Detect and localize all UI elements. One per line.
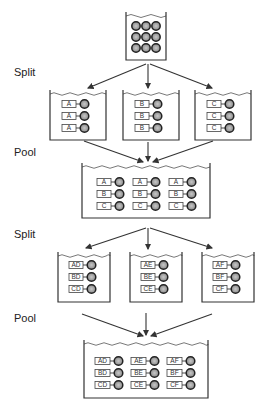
tag-label: AF — [170, 357, 178, 364]
tagged-bead: AE — [141, 261, 168, 270]
tag-label: CF — [216, 285, 225, 292]
tag-label: B — [140, 100, 144, 107]
tag-label: B — [140, 112, 144, 119]
tagged-bead: AE — [131, 357, 159, 366]
bead-icon — [159, 273, 168, 282]
bead-icon — [114, 381, 123, 390]
bead-icon — [231, 285, 240, 294]
bead-icon — [231, 261, 240, 270]
bead-icon — [225, 100, 234, 109]
bead-icon — [225, 112, 234, 121]
tagged-bead: B — [135, 124, 162, 133]
tag-label: B — [138, 190, 142, 197]
tagged-bead: CD — [95, 381, 123, 390]
tag-label: AE — [144, 261, 153, 268]
tagged-bead: BD — [95, 369, 123, 378]
tagged-bead: AD — [69, 261, 96, 270]
tagged-bead: B — [135, 112, 162, 121]
tag-label: BF — [216, 273, 224, 280]
pool-arrows-1 — [84, 141, 213, 162]
tag-label: A — [138, 178, 143, 185]
bead-icon — [115, 190, 124, 199]
beaker: ADBDCD — [58, 252, 110, 302]
bead-icon — [151, 202, 160, 211]
step-label-split-1: Split — [14, 66, 35, 78]
pool-beaker-1: AAABBBCCC — [82, 163, 210, 218]
tag-label: C — [212, 112, 217, 119]
bead-icon — [150, 381, 159, 390]
bead-icon — [115, 202, 124, 211]
tagged-bead: BF — [167, 369, 195, 378]
bead-icon — [153, 112, 162, 121]
initial-beaker — [126, 12, 166, 60]
tag-label: AF — [216, 261, 224, 268]
tagged-bead: A — [62, 124, 89, 133]
tagged-bead: A — [62, 100, 89, 109]
tagged-bead: C — [169, 202, 196, 211]
tagged-bead: BF — [213, 273, 240, 282]
bead-icon — [159, 285, 168, 294]
tag-label: A — [67, 112, 72, 119]
bead-icon — [159, 261, 168, 270]
tagged-bead: AD — [95, 357, 123, 366]
bead-icon — [87, 285, 96, 294]
tagged-bead: C — [207, 100, 234, 109]
tagged-bead: C — [133, 202, 160, 211]
tag-label: BD — [71, 273, 80, 280]
tag-label: B — [140, 124, 144, 131]
tag-label: B — [174, 190, 178, 197]
bead-icon — [187, 202, 196, 211]
tagged-bead: A — [97, 178, 124, 187]
tagged-bead: CD — [69, 285, 96, 294]
bead-icon — [186, 357, 195, 366]
tagged-bead: BE — [141, 273, 168, 282]
tagged-bead: B — [169, 190, 196, 199]
bead-icon — [114, 369, 123, 378]
bead-icon — [153, 100, 162, 109]
bead-icon — [151, 178, 160, 187]
tag-label: C — [212, 100, 217, 107]
tagged-bead: A — [169, 178, 196, 187]
step-label-pool-1: Pool — [14, 146, 36, 158]
pool-arrows-2 — [82, 313, 212, 336]
tagged-bead: BE — [131, 369, 159, 378]
tag-label: CF — [170, 381, 179, 388]
bead-icon — [80, 124, 89, 133]
tagged-bead: C — [207, 112, 234, 121]
bead-icon — [225, 124, 234, 133]
split-arrows-1 — [88, 64, 212, 88]
beaker: CCC — [195, 90, 251, 140]
tag-label: CD — [98, 381, 108, 388]
tag-label: B — [102, 190, 106, 197]
step-label-split-2: Split — [14, 228, 35, 240]
bead-icon — [187, 190, 196, 199]
tagged-bead: B — [97, 190, 124, 199]
pool-beaker-2: ADAEAFBDBEBFCDCECF — [84, 340, 208, 398]
tagged-bead: C — [207, 124, 234, 133]
tagged-bead: CE — [131, 381, 159, 390]
bead-icon — [231, 273, 240, 282]
tagged-bead: CF — [213, 285, 240, 294]
split-beakers-2: ADBDCDAEBECEAFBFCF — [58, 252, 254, 302]
bead-icon — [151, 190, 160, 199]
tag-label: BE — [134, 369, 143, 376]
bead-icon — [80, 112, 89, 121]
bead-grid — [132, 22, 160, 52]
tag-label: C — [102, 202, 107, 209]
bead-icon — [186, 369, 195, 378]
tag-label: C — [174, 202, 179, 209]
tag-label: AE — [134, 357, 143, 364]
split-arrows-2 — [86, 228, 212, 249]
tag-label: CE — [134, 381, 144, 388]
tagged-bead: AF — [167, 357, 195, 366]
tagged-bead: BD — [69, 273, 96, 282]
bead-icon — [80, 100, 89, 109]
tag-label: AD — [71, 261, 80, 268]
tag-label: CD — [71, 285, 81, 292]
bead-icon — [153, 124, 162, 133]
beaker: AEBECE — [130, 252, 182, 302]
bead-icon — [150, 369, 159, 378]
tagged-bead: B — [135, 100, 162, 109]
tag-label: BE — [144, 273, 153, 280]
bead-icon — [87, 261, 96, 270]
